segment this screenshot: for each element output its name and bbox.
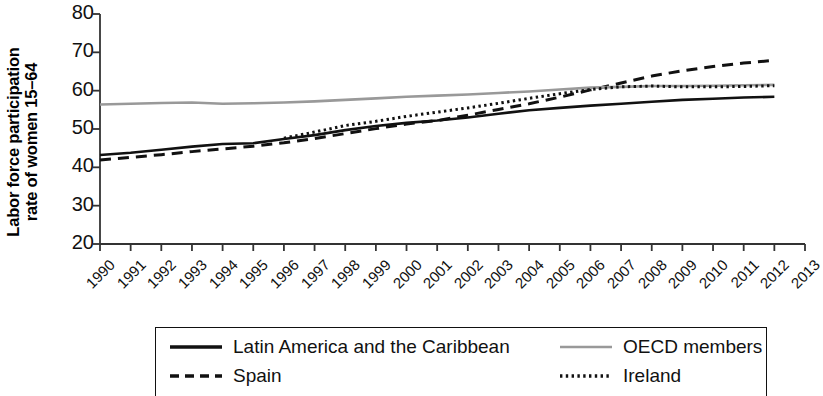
legend-line-swatch	[170, 369, 222, 383]
plot-area	[0, 0, 816, 330]
legend-line-swatch	[560, 340, 612, 354]
legend-item: Latin America and the Caribbean	[170, 334, 510, 360]
legend-line-swatch	[170, 340, 222, 354]
legend-item: Spain	[170, 363, 282, 389]
legend: Latin America and the CaribbeanOECD memb…	[155, 327, 767, 396]
legend-label: Spain	[233, 365, 282, 387]
legend-label: Latin America and the Caribbean	[233, 336, 510, 358]
legend-line-swatch	[560, 369, 612, 383]
axes	[93, 14, 805, 251]
legend-item: OECD members	[560, 334, 762, 360]
legend-label: OECD members	[623, 336, 762, 358]
legend-item: Ireland	[560, 363, 681, 389]
legend-label: Ireland	[623, 365, 681, 387]
series-line-0	[100, 97, 774, 155]
